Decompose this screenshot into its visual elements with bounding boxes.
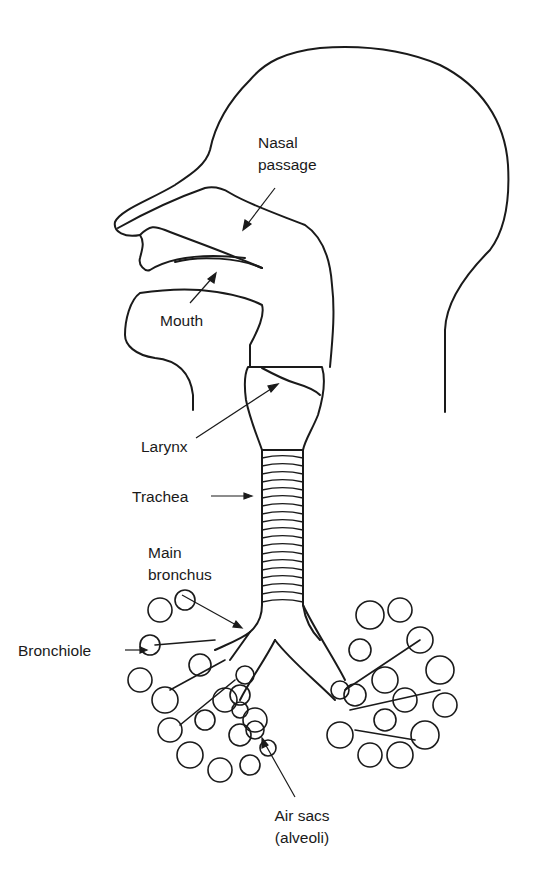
label-trachea: Trachea [132,487,188,506]
chin [125,290,263,410]
label-main-bronchus-2: bronchus [148,565,212,584]
trachea [250,450,320,640]
label-mouth: Mouth [160,311,203,330]
label-nasal-passage-2: passage [258,155,317,174]
label-air-sacs-1: Air sacs [262,806,342,825]
label-bronchiole: Bronchiole [18,641,91,660]
nasal-cavity [118,187,333,367]
right-lung-alveoli [327,598,457,768]
label-air-sacs-2: (alveoli) [262,828,342,847]
label-main-bronchus-1: Main [148,543,182,562]
right-main-bronchus [275,605,345,700]
left-lung-alveoli [128,590,267,782]
middle-air-sacs [232,702,276,756]
lower-jaw [175,258,262,268]
label-nasal-passage-1: Nasal [258,133,298,152]
label-larynx: Larynx [141,437,188,456]
